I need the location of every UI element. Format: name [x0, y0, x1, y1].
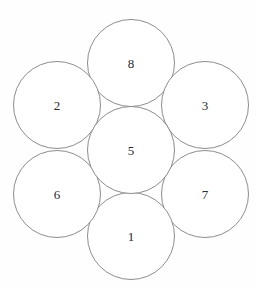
- circle-lower-right-label: 7: [202, 188, 209, 201]
- circle-rosette-diagram: 5837162: [0, 0, 257, 290]
- circle-upper-left-label: 2: [54, 99, 61, 112]
- circle-center-label: 5: [128, 144, 135, 157]
- circle-upper-right-label: 3: [202, 99, 209, 112]
- circle-lower-left-label: 6: [54, 188, 61, 201]
- circle-bottom-label: 1: [128, 230, 135, 243]
- circle-top-label: 8: [128, 57, 135, 70]
